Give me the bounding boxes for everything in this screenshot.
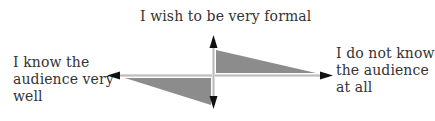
up-arrowhead-icon <box>210 35 218 48</box>
upper-right-triangle <box>216 50 316 73</box>
left-arrowhead-icon <box>107 72 120 80</box>
lower-left-triangle <box>125 78 211 105</box>
right-arrowhead-icon <box>320 72 333 80</box>
